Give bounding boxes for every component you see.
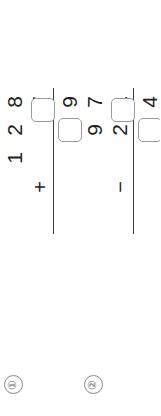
answer-input-box[interactable] [58,118,82,142]
problem-1-answer-box-tens[interactable] [58,116,82,144]
problem-1: ① 1 2 8 + 7 [0,0,80,416]
problem-1-answer-digit-ones: 9 [59,88,80,116]
problem-2-answer-box-tens[interactable] [138,116,161,144]
problem-2-row-top: 9 7 [82,88,107,202]
problem-2-operator: − [110,172,130,202]
problem-1-top-op-spacer [5,172,25,202]
problem-1-operator: + [30,172,50,202]
problem-2: ② 9 7 − 2 1 [80,0,160,416]
answer-input-box[interactable] [138,118,161,142]
problem-1-addend-box[interactable] [31,98,55,122]
problem-2-answer-spacer [139,144,160,172]
problem-1-row-top: 1 2 8 [2,88,27,202]
problem-1-top-digit-ones: 8 [4,88,25,116]
problem-1-answer-op-spacer [60,172,80,202]
problem-1-marker: ① [4,375,23,394]
problem-2-subtrahend-box-wrapper[interactable] [111,98,139,122]
problem-2-marker: ② [84,375,103,394]
rotated-page-wrapper: ① 1 2 8 + 7 [0,0,160,416]
worksheet-sheet: ① 1 2 8 + 7 [0,0,160,416]
problem-1-answer-spacer [59,144,80,172]
problem-2-top-digit-tens: 9 [84,116,105,144]
problem-2-top-op-spacer [85,172,105,202]
problem-2-answer-digit-ones: 4 [139,88,160,116]
problem-1-carry-box-wrapper[interactable] [31,98,59,122]
problem-2-subtrahend-box[interactable] [111,98,135,122]
problem-2-answer-op-spacer [140,172,160,202]
problem-1-top-digit-tens: 2 [4,116,25,144]
problem-1-top-digit-hundreds: 1 [4,144,25,172]
problem-2-top-digit-ones: 7 [84,88,105,116]
problem-2-row-answer: 4 [136,88,160,202]
problem-1-row-answer: 9 [56,88,83,202]
